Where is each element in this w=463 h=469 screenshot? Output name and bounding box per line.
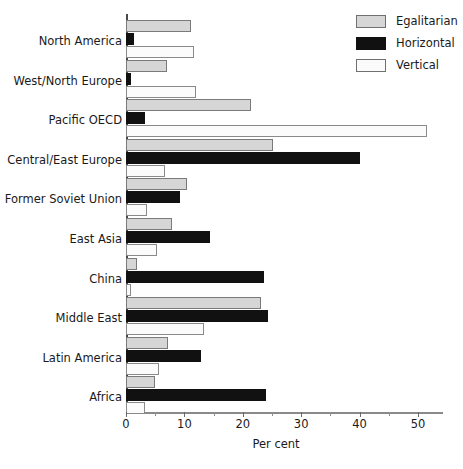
bar-horizontal-latin-america (126, 350, 201, 362)
bar-egalitarian-central-east-europe (126, 139, 273, 151)
bar-horizontal-africa (126, 389, 266, 401)
bar-horizontal-north-america (126, 33, 134, 45)
x-tick-label-30: 30 (294, 418, 309, 431)
x-tick-label-50: 50 (411, 418, 426, 431)
x-tick-label-10: 10 (177, 418, 192, 431)
bar-vertical-west-north-europe (126, 86, 196, 98)
bar-vertical-former-soviet-union (126, 204, 147, 216)
category-label-west-north-europe: West/North Europe (2, 75, 122, 87)
bar-vertical-pacific-oecd (126, 125, 427, 137)
bar-egalitarian-west-north-europe (126, 60, 167, 72)
x-tick-label-0: 0 (122, 418, 129, 431)
category-label-pacific-oecd: Pacific OECD (2, 114, 122, 126)
bar-vertical-east-asia (126, 244, 157, 256)
bar-horizontal-west-north-europe (126, 73, 131, 85)
bar-chart: EgalitarianHorizontalVertical North Amer… (0, 0, 463, 469)
x-tick-label-40: 40 (352, 418, 367, 431)
bar-horizontal-former-soviet-union (126, 191, 180, 203)
bar-horizontal-pacific-oecd (126, 112, 145, 124)
category-label-latin-america: Latin America (2, 352, 122, 364)
x-minor-tick-5 (155, 412, 156, 416)
bar-egalitarian-latin-america (126, 337, 168, 349)
bar-horizontal-east-asia (126, 231, 210, 243)
category-label-north-america: North America (2, 35, 122, 47)
plot-area (126, 14, 426, 412)
category-label-africa: Africa (2, 391, 122, 403)
x-minor-tick-15 (214, 412, 215, 416)
bar-horizontal-central-east-europe (126, 152, 360, 164)
category-label-east-asia: East Asia (2, 233, 122, 245)
bar-vertical-latin-america (126, 363, 159, 375)
category-axis-labels: North AmericaWest/North EuropePacific OE… (0, 14, 122, 412)
x-axis-title: Per cent (126, 437, 426, 451)
x-minor-tick-45 (389, 412, 390, 416)
bar-egalitarian-china (126, 258, 137, 270)
bar-vertical-central-east-europe (126, 165, 165, 177)
category-label-china: China (2, 273, 122, 285)
category-label-middle-east: Middle East (2, 312, 122, 324)
bar-vertical-middle-east (126, 323, 204, 335)
bar-egalitarian-middle-east (126, 297, 261, 309)
x-minor-tick-35 (330, 412, 331, 416)
bar-vertical-north-america (126, 46, 194, 58)
x-tick-label-20: 20 (235, 418, 250, 431)
bar-vertical-china (126, 284, 131, 296)
category-label-former-soviet-union: Former Soviet Union (2, 193, 122, 205)
bar-egalitarian-north-america (126, 20, 191, 32)
bar-egalitarian-former-soviet-union (126, 178, 187, 190)
x-minor-tick-25 (272, 412, 273, 416)
bar-egalitarian-africa (126, 376, 155, 388)
bar-egalitarian-east-asia (126, 218, 172, 230)
bar-horizontal-china (126, 271, 264, 283)
bar-horizontal-middle-east (126, 310, 268, 322)
bar-egalitarian-pacific-oecd (126, 99, 251, 111)
category-label-central-east-europe: Central/East Europe (2, 154, 122, 166)
